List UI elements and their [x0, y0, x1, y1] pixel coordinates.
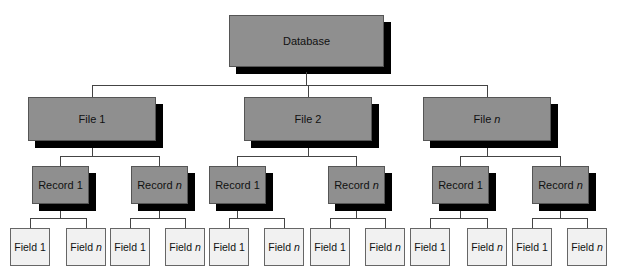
field-node-label: Field [571, 241, 597, 253]
field-node: Field n [567, 228, 607, 266]
field-node-index: 1 [140, 241, 146, 253]
connector-line [60, 156, 160, 157]
database-node: Database [229, 15, 384, 67]
record-node: Record n [131, 166, 188, 204]
field-node-index: 1 [542, 241, 548, 253]
file-node-label: File [79, 113, 100, 125]
connector-line [430, 218, 431, 228]
connector-line [237, 211, 238, 218]
connector-line [487, 148, 488, 156]
connector-line [237, 156, 238, 166]
connector-line [30, 218, 31, 228]
connector-line [30, 218, 87, 219]
record-node-index: 1 [477, 179, 483, 191]
field-node-index: n [395, 241, 401, 253]
connector-line [60, 211, 61, 218]
connector-line [532, 218, 588, 219]
connector-line [308, 148, 309, 156]
file-node-index: 1 [99, 113, 105, 125]
record-node: Record 1 [209, 166, 266, 204]
connector-line [308, 85, 309, 97]
connector-line [460, 156, 461, 166]
connector-line [92, 148, 93, 156]
connector-line [532, 218, 533, 228]
connector-line [229, 218, 230, 228]
field-node-index: n [294, 241, 300, 253]
field-node: Field n [165, 228, 205, 266]
field-node-label: Field [414, 241, 440, 253]
record-node: Record 1 [32, 166, 89, 204]
connector-line [330, 218, 331, 228]
field-node-label: Field [114, 241, 140, 253]
database-node-label: Database [283, 35, 330, 47]
field-node: Field n [365, 228, 405, 266]
connector-line [229, 218, 285, 219]
field-node-label: Field [516, 241, 542, 253]
connector-line [92, 85, 93, 97]
field-node-label: Field [369, 241, 395, 253]
field-node-index: n [195, 241, 201, 253]
connector-line [60, 156, 61, 166]
record-node-label: Record [438, 179, 477, 191]
field-node: Field 1 [110, 228, 150, 266]
connector-line [560, 156, 561, 166]
record-node-index: n [577, 179, 583, 191]
field-node-label: Field [169, 241, 195, 253]
field-node-index: 1 [440, 241, 446, 253]
field-node-label: Field [471, 241, 497, 253]
connector-line [385, 218, 386, 228]
connector-line [306, 72, 307, 86]
database-hierarchy-diagram: DatabaseFile 1Record 1Field 1Field nReco… [0, 0, 622, 279]
field-node: Field n [66, 228, 106, 266]
field-node-index: 1 [40, 241, 46, 253]
field-node-index: 1 [239, 241, 245, 253]
record-node: Record n [532, 166, 589, 204]
connector-line [460, 211, 461, 218]
connector-line [237, 156, 357, 157]
field-node-index: n [497, 241, 503, 253]
record-node-index: 1 [77, 179, 83, 191]
file-node-index: 2 [315, 113, 321, 125]
field-node: Field 1 [410, 228, 450, 266]
connector-line [92, 85, 488, 86]
field-node: Field n [467, 228, 507, 266]
connector-line [487, 85, 488, 97]
field-node: Field 1 [209, 228, 249, 266]
connector-line [130, 218, 131, 228]
field-node-label: Field [314, 241, 340, 253]
field-node-label: Field [213, 241, 239, 253]
connector-line [487, 218, 488, 228]
connector-line [185, 218, 186, 228]
record-node-index: 1 [254, 179, 260, 191]
field-node-index: 1 [340, 241, 346, 253]
connector-line [159, 156, 160, 166]
record-node-label: Record [137, 179, 176, 191]
field-node-label: Field [268, 241, 294, 253]
field-node: Field 1 [512, 228, 552, 266]
record-node-label: Record [538, 179, 577, 191]
record-node-index: n [373, 179, 379, 191]
field-node-index: n [597, 241, 603, 253]
file-node: File 2 [244, 97, 372, 141]
file-node: File n [423, 97, 551, 141]
connector-line [130, 218, 186, 219]
file-node-label: File [474, 113, 495, 125]
field-node: Field 1 [310, 228, 350, 266]
field-node-label: Field [70, 241, 96, 253]
file-node-index: n [494, 113, 500, 125]
field-node: Field 1 [10, 228, 50, 266]
record-node: Record n [328, 166, 385, 204]
connector-line [330, 218, 386, 219]
connector-line [560, 211, 561, 218]
file-node: File 1 [28, 97, 156, 141]
record-node-label: Record [215, 179, 254, 191]
connector-line [460, 156, 561, 157]
field-node-label: Field [14, 241, 40, 253]
connector-line [159, 211, 160, 218]
field-node: Field n [264, 228, 304, 266]
record-node: Record 1 [432, 166, 489, 204]
connector-line [284, 218, 285, 228]
record-node-index: n [176, 179, 182, 191]
connector-line [356, 211, 357, 218]
connector-line [587, 218, 588, 228]
